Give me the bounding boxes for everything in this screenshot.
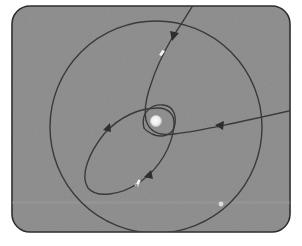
orbital-diagram: [0, 0, 302, 246]
orbit-diagram-canvas: [0, 0, 302, 246]
satellite-outer-icon: [219, 202, 224, 207]
central-body: [151, 116, 162, 127]
